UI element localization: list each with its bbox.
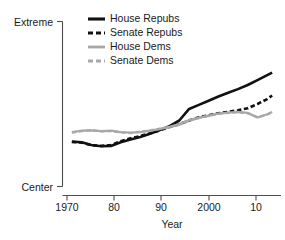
x-tick-label-1990: 90 [155,201,167,213]
legend-label-senate-dems: Senate Dems [110,54,174,66]
legend-label-senate-repubs: Senate Repubs [110,26,182,38]
y-tick-label-center: Center [21,181,53,193]
series-line-senate-repubs [72,95,272,145]
y-tick-label-extreme: Extreme [14,16,53,28]
x-axis-title: Year [161,218,183,230]
x-axis: 1970 80 90 2000 10 Year [55,196,281,231]
x-tick-label-1970: 1970 [55,201,79,213]
legend-label-house-dems: House Dems [110,40,171,52]
line-chart-canvas: Extreme Center 1970 80 90 2000 10 Year H… [0,0,285,240]
chart-figure: Extreme Center 1970 80 90 2000 10 Year H… [0,0,285,240]
chart-legend: House RepubsSenate RepubsHouse DemsSenat… [88,12,182,66]
x-tick-label-1980: 80 [108,201,120,213]
series-line-house-dems [72,112,272,133]
series-line-house-repubs [72,73,272,147]
y-axis: Extreme Center [14,16,63,193]
series-layer [72,73,272,147]
x-tick-label-2000: 2000 [197,201,221,213]
x-tick-label-2010: 10 [250,201,262,213]
legend-label-house-repubs: House Repubs [110,12,179,24]
